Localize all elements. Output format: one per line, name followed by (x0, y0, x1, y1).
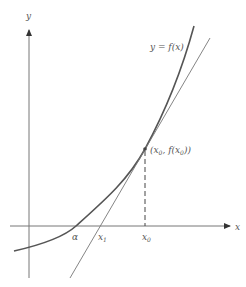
tangent-line (70, 38, 210, 278)
x0-label: x0 (142, 232, 151, 243)
newton-method-diagram: y x y = f(x) (x0, f(x0)) α x1 x0 (0, 0, 246, 287)
curve-label: y = f(x) (149, 42, 184, 52)
x-axis-label: x (235, 222, 240, 232)
function-curve (14, 26, 194, 251)
point-label: (x0, f(x0)) (150, 145, 191, 156)
y-axis-label: y (25, 11, 32, 21)
tangent-point (143, 147, 147, 151)
x1-label: x1 (98, 232, 107, 243)
alpha-root-label: α (72, 232, 78, 242)
